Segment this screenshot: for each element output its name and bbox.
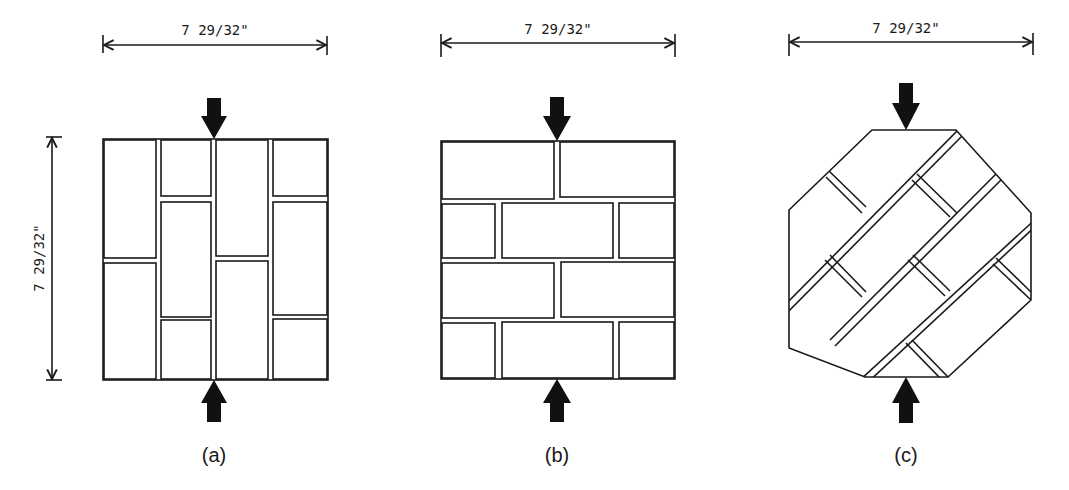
brick (442, 142, 554, 199)
brick (273, 140, 327, 196)
brick (502, 203, 613, 258)
height-dimension-label-a: 7 29/32" (31, 224, 47, 291)
height-dimension-a: 7 29/32" (31, 137, 62, 380)
caption-b: (b) (545, 444, 569, 466)
brick (619, 203, 674, 258)
load-arrow-up-icon (892, 377, 920, 423)
brick (161, 140, 211, 196)
panel-c: 7 29/32" (780, 20, 1040, 466)
load-arrow-up-icon (201, 380, 227, 422)
brick (619, 322, 674, 378)
width-dimension-c: 7 29/32" (789, 20, 1033, 56)
brick (442, 263, 554, 318)
width-dimension-a: 7 29/32" (103, 22, 327, 55)
width-dimension-b: 7 29/32" (441, 21, 675, 57)
brick (442, 323, 495, 378)
panel-b: 7 29/32" (b) (441, 21, 675, 466)
load-arrow-down-icon (892, 83, 920, 130)
caption-c: (c) (894, 444, 917, 466)
rotated-bricks-c (780, 128, 1040, 384)
caption-a: (a) (202, 444, 226, 466)
brick (273, 319, 327, 379)
brick (561, 262, 674, 317)
brick (216, 140, 268, 256)
brick (502, 322, 613, 378)
brick (442, 204, 495, 258)
load-arrow-down-icon (201, 98, 227, 139)
brick (273, 202, 327, 315)
brick (161, 320, 211, 379)
figure-canvas: 7 29/32" 7 29/32" (a) (0, 0, 1069, 490)
brick (104, 140, 156, 258)
panel-a: 7 29/32" 7 29/32" (a) (31, 22, 328, 466)
brick (104, 263, 156, 379)
brick (161, 202, 211, 317)
brick (216, 261, 268, 379)
specimen-outline-c (789, 130, 1031, 377)
brick (560, 142, 674, 197)
load-arrow-up-icon (543, 379, 571, 422)
width-dimension-label-c: 7 29/32" (872, 20, 939, 36)
load-arrow-down-icon (543, 97, 571, 141)
width-dimension-label-a: 7 29/32" (181, 22, 248, 38)
width-dimension-label-b: 7 29/32" (524, 21, 591, 37)
